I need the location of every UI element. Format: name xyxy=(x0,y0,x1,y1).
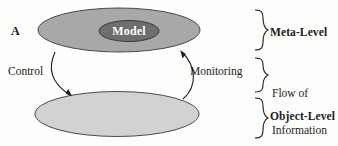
figure-label-a: A xyxy=(11,25,20,38)
figure-canvas: A Model Control Monitoring Meta-Level Fl… xyxy=(0,0,338,146)
object-level-label: Object-Level xyxy=(270,110,335,122)
flow-line-2: Information xyxy=(272,124,327,136)
monitoring-label: Monitoring xyxy=(190,65,242,77)
meta-level-label: Meta-Level xyxy=(270,26,327,38)
model-label: Model xyxy=(100,25,158,38)
object-level-plane xyxy=(35,92,199,137)
flow-of-information-label: Flow of Information xyxy=(272,62,327,146)
control-curve xyxy=(51,52,70,95)
control-label: Control xyxy=(8,65,43,77)
flow-line-1: Flow of xyxy=(272,87,327,99)
object-level-bracket xyxy=(255,98,268,138)
meta-level-bracket xyxy=(255,10,268,50)
flow-of-information-bracket xyxy=(255,58,268,92)
